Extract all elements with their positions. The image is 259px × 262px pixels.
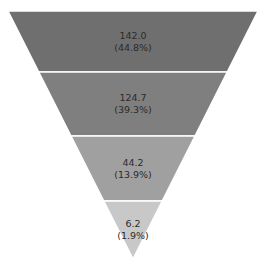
value-label-2: 124.7	[119, 92, 146, 103]
value-label-1: 142.0	[119, 30, 146, 41]
value-label-4: 6.2	[125, 218, 140, 229]
funnel-chart: 142.0(44.8%)124.7(39.3%)44.2(13.9%)6.2(1…	[0, 0, 259, 262]
percent-label-4: (1.9%)	[117, 230, 149, 241]
percent-label-2: (39.3%)	[114, 104, 152, 115]
percent-label-3: (13.9%)	[114, 169, 152, 180]
value-label-3: 44.2	[122, 157, 143, 168]
percent-label-1: (44.8%)	[114, 42, 152, 53]
